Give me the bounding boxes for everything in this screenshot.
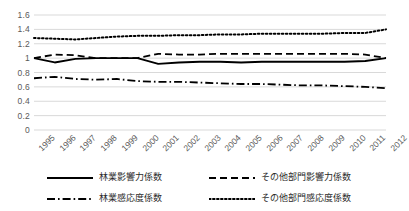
x-axis-tick-label: 2008 [306,133,325,152]
x-axis-tick-label: 2004 [223,133,242,152]
x-axis-tick-label: 2009 [327,133,346,152]
legend-label: その他部門影響力係数 [261,173,351,182]
x-axis-tick-label: 1995 [37,133,56,152]
x-axis-tick-label: 2000 [141,133,160,152]
y-axis-tick-label: 0.2 [18,111,30,120]
chart-legend: 林業影響力係数その他部門影響力係数林業感応度係数その他部門感応度係数 [47,167,367,209]
series-line [34,54,386,58]
y-axis-tick-label: 1.4 [18,25,30,34]
x-axis-tick-label: 1997 [79,133,98,152]
legend-swatch [209,194,255,204]
x-axis-tick-label: 1996 [58,133,77,152]
y-axis-tick-label: 0.8 [18,68,30,77]
legend-item[interactable]: その他部門感応度係数 [209,194,367,204]
x-axis-tick-label: 1998 [99,133,118,152]
plot-area [34,15,386,130]
x-axis-tick-label: 2002 [182,133,201,152]
x-axis-tick-label: 2001 [161,133,180,152]
x-axis-tick-label: 2006 [265,133,284,152]
x-axis-tick-label: 2012 [389,133,408,152]
y-axis-tick-label: 1 [25,54,30,63]
legend-swatch [47,173,93,183]
x-axis-tick-label: 2003 [203,133,222,152]
legend-swatch [209,173,255,183]
legend-item[interactable]: 林業感応度係数 [47,194,209,204]
series-line [34,77,386,89]
series-lines [34,15,386,130]
series-line [34,58,386,64]
x-axis-tick-label: 1999 [120,133,139,152]
y-axis-tick-label: 0 [25,126,30,135]
legend-swatch [47,194,93,204]
x-axis: 1995199619971998199920002001200220032004… [34,131,386,165]
legend-label: 林業感応度係数 [99,194,162,203]
y-axis-tick-label: 1.6 [18,11,30,20]
legend-label: その他部門感応度係数 [261,194,351,203]
x-axis-tick-label: 2005 [244,133,263,152]
x-axis-tick-label: 2010 [348,133,367,152]
x-axis-tick-label: 2011 [368,133,387,152]
legend-item[interactable]: 林業影響力係数 [47,173,209,183]
y-axis-tick-label: 1.2 [18,40,30,49]
legend-item[interactable]: その他部門影響力係数 [209,173,367,183]
x-axis-tick-label: 2007 [286,133,305,152]
series-line [34,29,386,39]
y-axis: 00.20.40.60.811.21.41.6 [0,15,30,130]
legend-label: 林業影響力係数 [99,173,162,182]
y-axis-tick-label: 0.6 [18,83,30,92]
y-axis-tick-label: 0.4 [18,97,30,106]
